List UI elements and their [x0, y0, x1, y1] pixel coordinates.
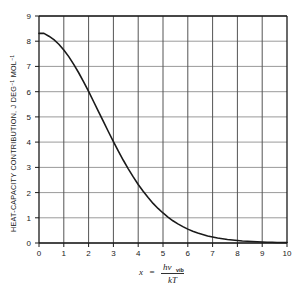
x-tick-label: 1 [62, 249, 67, 258]
heat-capacity-chart: 0123456789 012345678910 HEAT-CAPACITY CO… [0, 0, 298, 295]
y-tick-label: 2 [27, 189, 32, 198]
x-tick-label: 10 [283, 249, 292, 258]
x-tick-label: 3 [111, 249, 116, 258]
formula-numerator-subscript: vib [176, 267, 184, 273]
y-tick-label: 5 [27, 113, 32, 122]
y-tick-label: 6 [27, 88, 32, 97]
x-tick-label: 9 [260, 249, 265, 258]
y-tick-label: 7 [27, 62, 32, 71]
x-tick-label: 4 [136, 249, 141, 258]
y-tick-label: 8 [27, 37, 32, 46]
x-tick-label: 7 [210, 249, 215, 258]
y-tick-label: 1 [27, 214, 32, 223]
y-tick-label: 0 [27, 239, 32, 248]
formula-equals: = [149, 267, 154, 277]
x-tick-label: 2 [86, 249, 91, 258]
x-tick-label: 6 [186, 249, 191, 258]
y-tick-label: 9 [27, 12, 32, 21]
formula-numerator: hν [163, 262, 172, 272]
x-tick-label: 8 [235, 249, 240, 258]
formula-denominator: kT [168, 275, 178, 285]
formula-variable: x [138, 267, 143, 277]
chart-background [0, 0, 298, 295]
x-tick-label: 5 [161, 249, 166, 258]
chart-figure: 0123456789 012345678910 HEAT-CAPACITY CO… [0, 0, 298, 295]
x-tick-label: 0 [37, 249, 42, 258]
y-tick-label: 3 [27, 163, 32, 172]
y-tick-label: 4 [27, 138, 32, 147]
